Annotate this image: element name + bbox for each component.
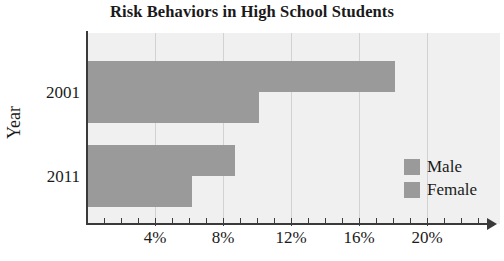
x-axis-arrow-icon — [487, 218, 497, 230]
tick-minor-10 — [257, 218, 258, 224]
legend-item-male: Male — [404, 155, 477, 178]
tick-minor-15 — [342, 218, 343, 224]
x-tick-label-8%: 8% — [193, 228, 253, 248]
y-category-label-2001: 2001 — [34, 83, 80, 103]
tick-minor-9 — [240, 218, 241, 224]
legend-label-female: Female — [427, 181, 477, 198]
tick-major-4 — [155, 218, 156, 226]
tick-minor-5 — [172, 218, 173, 224]
tick-minor-23 — [478, 218, 479, 224]
bar-2011-male — [87, 145, 235, 176]
chart-title: Risk Behaviors in High School Students — [0, 2, 504, 22]
tick-minor-18 — [393, 218, 394, 224]
x-tick-label-20%: 20% — [397, 228, 457, 248]
x-tick-label-4%: 4% — [125, 228, 185, 248]
tick-minor-2 — [121, 218, 122, 224]
tick-minor-6 — [189, 218, 190, 224]
tick-minor-21 — [444, 218, 445, 224]
legend-label-male: Male — [427, 158, 462, 175]
legend-swatch-female — [404, 182, 420, 198]
legend-item-female: Female — [404, 178, 477, 201]
bar-2001-female — [87, 92, 259, 123]
chart-legend: Male Female — [404, 155, 477, 201]
tick-minor-11 — [274, 218, 275, 224]
tick-minor-17 — [376, 218, 377, 224]
y-category-label-2011: 2011 — [34, 167, 80, 187]
legend-swatch-male — [404, 159, 420, 175]
tick-minor-3 — [138, 218, 139, 224]
tick-major-16 — [359, 218, 360, 226]
tick-major-8 — [223, 218, 224, 226]
y-axis-title: Year — [4, 93, 25, 153]
tick-minor-19 — [410, 218, 411, 224]
bar-2001-male — [87, 61, 395, 92]
x-tick-label-12%: 12% — [261, 228, 321, 248]
tick-major-12 — [291, 218, 292, 226]
tick-minor-7 — [206, 218, 207, 224]
x-tick-label-16%: 16% — [329, 228, 389, 248]
tick-minor-22 — [461, 218, 462, 224]
y-axis-line — [86, 31, 88, 225]
x-axis-line — [86, 223, 490, 225]
tick-minor-14 — [325, 218, 326, 224]
bar-2011-female — [87, 176, 192, 207]
tick-minor-1 — [104, 218, 105, 224]
chart-container: Risk Behaviors in High School Students 4… — [0, 0, 504, 261]
tick-minor-13 — [308, 218, 309, 224]
tick-major-20 — [427, 218, 428, 226]
